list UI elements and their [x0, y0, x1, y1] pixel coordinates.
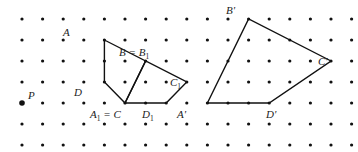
grid-dot — [103, 17, 106, 20]
grid-dot — [82, 38, 85, 41]
grid-dot — [329, 143, 332, 146]
grid-dot — [185, 143, 188, 146]
label-a1-eq-c: A1 = C — [89, 108, 121, 123]
grid-dot — [165, 122, 168, 125]
grid-dot — [329, 38, 332, 41]
grid-dot — [20, 143, 23, 146]
label-d-prime: D' — [265, 108, 277, 120]
label-p: P — [27, 89, 35, 101]
grid-dot — [123, 38, 126, 41]
label-b-eq-b1: B = B1 — [119, 46, 149, 61]
grid-dot — [268, 38, 271, 41]
grid-dot — [268, 143, 271, 146]
grid-dot — [41, 38, 44, 41]
grid-dot — [350, 59, 353, 62]
grid-dot — [226, 17, 229, 20]
grid-dot — [247, 80, 250, 83]
grid-dot — [41, 101, 44, 104]
grid-dot — [144, 80, 147, 83]
grid-dot — [206, 38, 209, 41]
grid-dot — [82, 59, 85, 62]
grid-dot — [309, 17, 312, 20]
grid-dot — [268, 59, 271, 62]
grid-dot — [41, 122, 44, 125]
grid-dot — [123, 17, 126, 20]
label-c-prime: C' — [318, 55, 328, 67]
grid-dot — [226, 143, 229, 146]
label-b-prime: B' — [226, 4, 236, 16]
grid-dot — [144, 143, 147, 146]
grid-dot — [123, 122, 126, 125]
grid-dot — [20, 38, 23, 41]
grid-dot — [103, 122, 106, 125]
grid-dot — [268, 122, 271, 125]
grid-dot — [309, 80, 312, 83]
grid-dot — [185, 122, 188, 125]
grid-dot — [82, 122, 85, 125]
grid-dot — [144, 122, 147, 125]
grid-dot — [288, 101, 291, 104]
center-point-p — [19, 100, 25, 106]
grid-dot — [247, 122, 250, 125]
grid-dot — [206, 143, 209, 146]
grid-dot — [268, 80, 271, 83]
grid-dot — [123, 143, 126, 146]
grid-dot — [41, 17, 44, 20]
label-a-prime: A' — [176, 108, 187, 120]
grid-dot — [41, 80, 44, 83]
grid-dot — [165, 38, 168, 41]
grid-dot — [268, 17, 271, 20]
grid-dot — [350, 101, 353, 104]
grid-dot — [288, 143, 291, 146]
grid-dot — [350, 143, 353, 146]
grid-dot — [82, 80, 85, 83]
grid-dot — [206, 80, 209, 83]
grid-dot — [226, 80, 229, 83]
grid-dot — [226, 122, 229, 125]
grid-dot — [185, 38, 188, 41]
grid-dot — [62, 143, 65, 146]
grid-dot — [20, 80, 23, 83]
grid-dot — [350, 17, 353, 20]
grid-dot — [20, 122, 23, 125]
dot-grid-diagram: A B = B1 C1 D A1 = C D1 P A' B' C' D' — [0, 0, 358, 152]
grid-dot — [103, 143, 106, 146]
grid-dot — [329, 17, 332, 20]
grid-dot — [20, 59, 23, 62]
grid-dot — [206, 17, 209, 20]
grid-dot — [144, 38, 147, 41]
grid-dot — [62, 101, 65, 104]
grid-dot — [62, 122, 65, 125]
grid-dot — [350, 122, 353, 125]
grid-dot — [288, 122, 291, 125]
grid-dot — [82, 17, 85, 20]
grid-dot — [309, 101, 312, 104]
grid-dot — [165, 59, 168, 62]
grid-dot — [309, 38, 312, 41]
grid-dot — [247, 143, 250, 146]
grid-dot — [165, 143, 168, 146]
grid-dot — [165, 80, 168, 83]
grid-dot — [41, 143, 44, 146]
grid-dot — [185, 17, 188, 20]
grid-dot — [206, 122, 209, 125]
grid-dot — [329, 101, 332, 104]
grid-dot — [309, 122, 312, 125]
grid-dot — [185, 59, 188, 62]
grid-dot — [309, 59, 312, 62]
grid-dot — [226, 38, 229, 41]
grid-dot — [329, 122, 332, 125]
grid-dot — [82, 143, 85, 146]
grid-dot — [165, 17, 168, 20]
grid-dot — [288, 80, 291, 83]
label-a: A — [62, 26, 70, 38]
grid-dot — [123, 80, 126, 83]
grid-dot — [62, 59, 65, 62]
grid-dot — [62, 38, 65, 41]
grid-dot — [185, 101, 188, 104]
grid-dot — [103, 101, 106, 104]
grid-dot — [62, 80, 65, 83]
grid-dot — [247, 38, 250, 41]
grid-dot — [123, 59, 126, 62]
label-d1: D1 — [141, 108, 154, 123]
